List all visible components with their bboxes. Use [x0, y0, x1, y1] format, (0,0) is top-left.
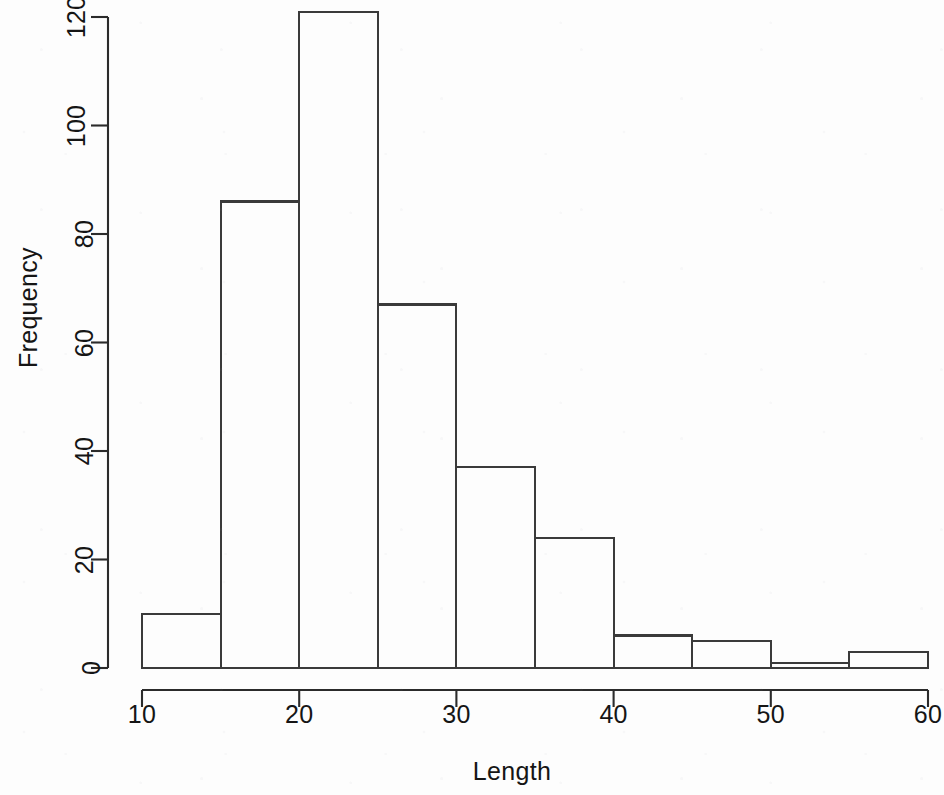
histogram-bar [849, 652, 928, 668]
x-axis-title: Length [0, 757, 944, 786]
y-tick-label: 0 [76, 661, 105, 675]
histogram-bar [614, 635, 693, 668]
y-tick-label: 40 [69, 437, 98, 465]
histogram-bar [771, 663, 850, 668]
x-tick-label: 10 [128, 700, 156, 729]
histogram-bar [535, 538, 614, 668]
histogram-bar [221, 201, 300, 668]
x-tick-label: 30 [442, 700, 470, 729]
x-axis [142, 690, 928, 707]
y-tick-label: 60 [69, 328, 98, 356]
x-tick-label: 50 [757, 700, 785, 729]
y-tick-label: 20 [69, 545, 98, 573]
histogram-bar [378, 305, 457, 668]
y-tick-label: 120 [62, 0, 91, 38]
plot-canvas [0, 0, 944, 795]
bars-group [142, 12, 928, 668]
histogram-bar [142, 614, 221, 668]
x-tick-label: 60 [914, 700, 942, 729]
histogram-bar [456, 467, 535, 668]
y-tick-label: 100 [62, 104, 91, 147]
y-axis-title: Frequency [14, 312, 43, 368]
y-tick-label: 80 [69, 220, 98, 248]
histogram-bar [299, 12, 378, 668]
x-tick-label: 20 [285, 700, 313, 729]
histogram-bar [692, 641, 771, 668]
x-tick-label: 40 [599, 700, 627, 729]
histogram-figure: 102030405060 020406080100120 Length Freq… [0, 0, 944, 795]
